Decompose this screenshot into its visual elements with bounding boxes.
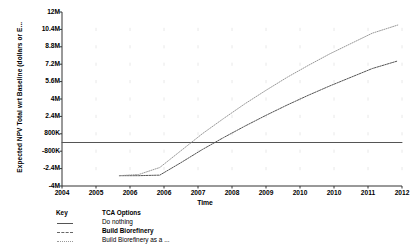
legend-label: Do nothing — [102, 219, 133, 225]
y-tick-label: 800K — [20, 130, 60, 137]
y-tick-label: 8.8M — [20, 43, 60, 50]
chart-legend: Key TCA Options Do nothingBuild Biorefin… — [56, 210, 296, 246]
y-tick-label: 5.6M — [20, 78, 60, 85]
y-tick-label: 7.2M — [20, 61, 60, 68]
series-line — [119, 61, 397, 176]
y-tick-label: 2.4M — [20, 113, 60, 120]
y-tick-label: 4M — [20, 96, 60, 103]
grid-marks — [96, 28, 402, 170]
y-axis-tick-labels: 12M10.4M8.8M7.2M5.6M4M2.4M800K-800K-2.4M… — [18, 0, 60, 250]
legend-line-swatch-icon — [57, 223, 73, 224]
legend-row[interactable]: Build Biorefinery as a ... — [56, 237, 296, 246]
legend-header-row: Key TCA Options — [56, 210, 296, 219]
legend-row[interactable]: Do nothing — [56, 219, 296, 228]
legend-label: Build Biorefinery — [102, 228, 154, 234]
y-tick-label: 12M — [20, 9, 60, 16]
x-axis-title: Time — [0, 200, 410, 207]
x-tick-label: 2012 — [382, 190, 410, 197]
chart-container: Expected NPV Total wrt Baseline (dollars… — [0, 0, 410, 250]
legend-rows: Do nothingBuild BiorefineryBuild Biorefi… — [56, 219, 296, 246]
legend-row[interactable]: Build Biorefinery — [56, 228, 296, 237]
y-tick-label: -800K — [20, 148, 60, 155]
series-line — [119, 25, 397, 176]
y-tick-label: -2.4M — [20, 165, 60, 172]
legend-header-key: Key — [56, 210, 90, 216]
legend-line-swatch-icon — [57, 241, 73, 242]
legend-line-swatch-icon — [57, 232, 73, 233]
legend-label: Build Biorefinery as a ... — [102, 237, 170, 243]
legend-header-options: TCA Options — [102, 210, 141, 216]
y-tick-label: -4M — [20, 183, 60, 190]
y-tick-label: 10.4M — [20, 26, 60, 33]
